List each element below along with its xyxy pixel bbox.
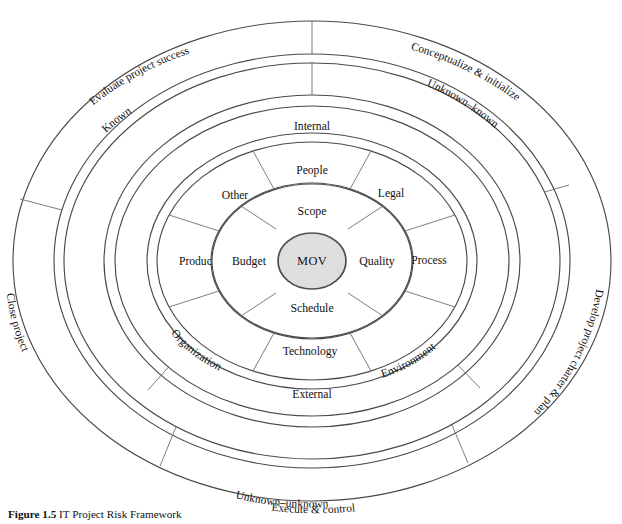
objective-label-quality: Quality — [359, 254, 394, 268]
risk-label-people: People — [296, 164, 328, 177]
objective-label-schedule: Schedule — [290, 301, 333, 315]
concentric-ring-chart: Conceptualize & initialize Develop proje… — [0, 0, 622, 524]
risk-label-other: Other — [222, 189, 249, 202]
risk-label-process: Process — [411, 254, 447, 267]
figure-caption-text: IT Project Risk Framework — [59, 508, 182, 520]
risk-label-product: Product — [179, 255, 216, 268]
figure-caption-label: Figure 1.5 — [8, 508, 56, 520]
label-external: External — [292, 388, 331, 401]
core-mov: MOV — [278, 233, 346, 289]
label-internal: Internal — [294, 120, 330, 133]
risk-framework-diagram: Conceptualize & initialize Develop proje… — [0, 0, 622, 524]
risk-label-technology: Technology — [283, 345, 338, 358]
figure-caption: Figure 1.5 IT Project Risk Framework — [8, 508, 182, 520]
objective-label-scope: Scope — [298, 204, 327, 218]
mov-label: MOV — [297, 254, 327, 268]
objective-label-budget: Budget — [232, 254, 267, 268]
risk-label-legal: Legal — [378, 187, 404, 200]
